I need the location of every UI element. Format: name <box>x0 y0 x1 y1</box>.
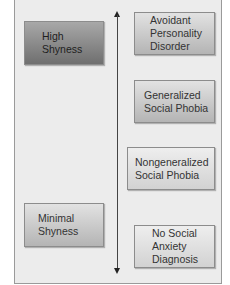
arrow-down-icon <box>114 268 120 274</box>
high-shyness-box: High Shyness <box>24 21 104 65</box>
severity-axis-line <box>117 15 118 270</box>
avoidant-personality-disorder-box: Avoidant Personality Disorder <box>134 12 215 55</box>
minimal-shyness-box: Minimal Shyness <box>24 203 104 247</box>
nongeneralized-social-phobia-label: Nongeneralized Social Phobia <box>135 156 209 182</box>
nongeneralized-social-phobia-box: Nongeneralized Social Phobia <box>127 147 215 190</box>
no-social-anxiety-diagnosis-label: No Social Anxiety Diagnosis <box>152 227 198 266</box>
generalized-social-phobia-box: Generalized Social Phobia <box>134 80 215 123</box>
generalized-social-phobia-label: Generalized Social Phobia <box>144 89 208 115</box>
high-shyness-label: High Shyness <box>42 30 82 56</box>
avoidant-personality-disorder-label: Avoidant Personality Disorder <box>150 14 202 53</box>
no-social-anxiety-diagnosis-box: No Social Anxiety Diagnosis <box>134 225 215 268</box>
minimal-shyness-label: Minimal Shyness <box>38 212 78 238</box>
